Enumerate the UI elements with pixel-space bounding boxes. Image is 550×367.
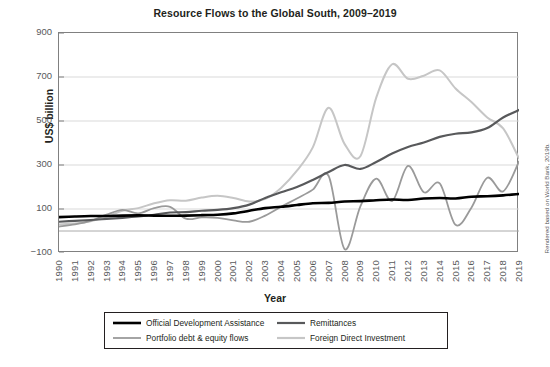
x-tick-label: 2014 xyxy=(434,260,445,282)
legend-item-portfolio-debt-equity-flows[interactable]: Portfolio debt & equity flows xyxy=(113,333,277,343)
legend-label: Foreign Direct Investment xyxy=(310,333,405,343)
legend-label: Remittances xyxy=(310,318,356,328)
x-tick-label: 2011 xyxy=(386,260,397,281)
x-tick-label: 1995 xyxy=(132,260,143,282)
x-tick-label: 2004 xyxy=(275,260,286,282)
x-axis-title: Year xyxy=(0,292,550,304)
legend-label: Portfolio debt & equity flows xyxy=(146,333,248,343)
legend-swatch-line xyxy=(113,318,141,328)
x-tick-label: 1994 xyxy=(116,260,127,282)
x-tick-label: 1991 xyxy=(69,260,80,282)
x-tick-label: 2008 xyxy=(339,260,350,282)
x-tick-label: 2017 xyxy=(481,260,492,282)
legend-item-official-development-assistance[interactable]: Official Development Assistance xyxy=(113,318,277,328)
x-tick-label: 2018 xyxy=(497,260,508,282)
legend-swatch-line xyxy=(277,318,305,328)
y-tick-label: 100 xyxy=(4,203,52,213)
legend-item-foreign-direct-investment[interactable]: Foreign Direct Investment xyxy=(277,333,441,343)
x-tick-label: 1997 xyxy=(164,260,175,282)
source-note: Rendered based on World Bank, 2019b. xyxy=(543,134,550,254)
series-canvas xyxy=(59,33,519,253)
chart-figure: Resource Flows to the Global South, 2009… xyxy=(0,0,550,367)
x-tick-label: 1990 xyxy=(53,260,64,282)
chart-title: Resource Flows to the Global South, 2009… xyxy=(0,7,550,19)
x-tick-label: 2013 xyxy=(418,260,429,282)
x-tick-label: 1998 xyxy=(180,260,191,282)
x-tick-label: 2012 xyxy=(402,260,413,282)
x-tick-label: 2009 xyxy=(354,260,365,282)
legend-swatch-line xyxy=(113,333,141,343)
y-tick-label: 700 xyxy=(4,71,52,81)
y-tick-label: 500 xyxy=(4,115,52,125)
x-tick-label: 2006 xyxy=(307,260,318,282)
series-line-foreign-direct-investment xyxy=(59,64,519,225)
x-tick-label: 2001 xyxy=(227,260,238,282)
x-tick-label: 2007 xyxy=(323,260,334,282)
x-tick-label: 1992 xyxy=(85,260,96,282)
x-tick-label: 2010 xyxy=(370,260,381,282)
y-tick-label: 300 xyxy=(4,159,52,169)
x-tick-label: 2019 xyxy=(513,260,524,282)
x-tick-label: 1993 xyxy=(101,260,112,282)
x-tick-label: 1996 xyxy=(148,260,159,282)
chart-legend: Official Development Assistance Remittan… xyxy=(104,312,448,349)
x-tick-label: 2005 xyxy=(291,260,302,282)
legend-label: Official Development Assistance xyxy=(146,318,264,328)
y-tick-label: 900 xyxy=(4,27,52,37)
legend-swatch-line xyxy=(277,333,305,343)
x-tick-label: 2003 xyxy=(259,260,270,282)
x-tick-label: 2000 xyxy=(212,260,223,282)
legend-item-remittances[interactable]: Remittances xyxy=(277,318,441,328)
plot-area xyxy=(58,32,518,252)
x-tick-label: 2015 xyxy=(450,260,461,282)
y-tick-label: −100 xyxy=(4,247,52,257)
x-tick-label: 1999 xyxy=(196,260,207,282)
x-tick-label: 2016 xyxy=(465,260,476,282)
x-tick-label: 2002 xyxy=(243,260,254,282)
